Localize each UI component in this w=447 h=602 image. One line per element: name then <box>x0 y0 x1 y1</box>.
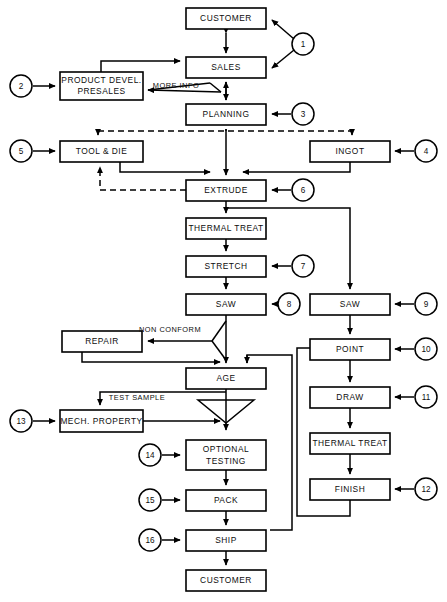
flowchart-svg: CUSTOMERSALESPRODUCT DEVEL.PRESALESPLANN… <box>0 0 447 602</box>
callout-8[interactable]: 8 <box>278 293 300 315</box>
callout-number: 1 <box>301 40 306 49</box>
process-box-customer-bottom[interactable]: CUSTOMER <box>186 570 266 591</box>
box-label: SAW <box>216 299 236 309</box>
callout-number: 12 <box>421 485 431 494</box>
callout-number: 7 <box>301 262 306 271</box>
callout-number: 5 <box>19 147 24 156</box>
box-label: SALES <box>211 62 241 72</box>
callout-7[interactable]: 7 <box>292 255 314 277</box>
box-label: THERMAL TREAT <box>188 223 263 233</box>
box-label: SAW <box>340 299 360 309</box>
box-label: DRAW <box>336 392 363 402</box>
callout-number: 14 <box>145 451 155 460</box>
callout-9[interactable]: 9 <box>415 293 437 315</box>
process-box-thermal-treat-right[interactable]: THERMAL TREAT <box>310 433 390 454</box>
process-box-tool-and-die[interactable]: TOOL & DIE <box>60 141 143 162</box>
process-box-planning[interactable]: PLANNING <box>186 104 266 125</box>
leader-1-customer <box>272 20 294 39</box>
box-label: FINISH <box>335 484 365 494</box>
leader-1-sales <box>272 50 294 68</box>
callout-3[interactable]: 3 <box>292 103 314 125</box>
callout-11[interactable]: 11 <box>415 386 437 408</box>
process-box-thermal-treat-left[interactable]: THERMAL TREAT <box>186 218 266 239</box>
process-box-finish[interactable]: FINISH <box>310 479 390 500</box>
callout-number: 2 <box>19 82 24 91</box>
process-box-optional-testing[interactable]: OPTIONALTESTING <box>186 440 266 470</box>
box-label: TOOL & DIE <box>76 146 128 156</box>
callout-13[interactable]: 13 <box>10 410 32 432</box>
process-box-age[interactable]: AGE <box>186 368 266 389</box>
process-box-saw-left[interactable]: SAW <box>186 294 266 315</box>
callout-1[interactable]: 1 <box>292 33 314 55</box>
process-box-sales[interactable]: SALES <box>186 57 266 78</box>
edge-productdevel-sales <box>101 61 180 72</box>
box-label-line2: PRESALES <box>77 86 125 96</box>
box-label: INGOT <box>335 146 364 156</box>
edge-label-test-sample: TEST SAMPLE <box>109 393 165 402</box>
callout-number: 13 <box>16 417 26 426</box>
process-box-stretch[interactable]: STRETCH <box>186 256 266 277</box>
process-box-extrude[interactable]: EXTRUDE <box>186 180 266 201</box>
process-box-ship[interactable]: SHIP <box>186 530 266 551</box>
box-label-line1: OPTIONAL <box>203 444 249 454</box>
callout-16[interactable]: 16 <box>139 529 161 551</box>
box-label: REPAIR <box>85 336 119 346</box>
edge-nonconform-rejoin <box>212 341 226 360</box>
box-label: MECH. PROPERTY <box>60 416 142 426</box>
box-label: PACK <box>214 495 238 505</box>
box-label-line1: PRODUCT DEVEL. <box>61 75 141 85</box>
edge-label-more-info: MORE INFO <box>153 81 199 90</box>
callout-number: 10 <box>421 345 431 354</box>
callout-2[interactable]: 2 <box>10 75 32 97</box>
edge-moreinfo-productdevel <box>148 90 221 92</box>
process-box-ingot[interactable]: INGOT <box>310 141 390 162</box>
flowchart-canvas: CUSTOMERSALESPRODUCT DEVEL.PRESALESPLANN… <box>0 0 447 602</box>
edge-labels-layer: MORE INFONON CONFORMTEST SAMPLE <box>109 81 201 402</box>
box-label: POINT <box>336 344 364 354</box>
edge-moreinfo-branch-a <box>210 83 221 92</box>
box-label: STRETCH <box>204 261 247 271</box>
callout-number: 15 <box>145 496 155 505</box>
callout-12[interactable]: 12 <box>415 478 437 500</box>
edge-ingot-extrude <box>243 162 350 172</box>
process-box-pack[interactable]: PACK <box>186 490 266 511</box>
callout-number: 4 <box>424 147 429 156</box>
callout-number: 11 <box>422 393 431 402</box>
callout-number: 16 <box>145 536 155 545</box>
box-label: SHIP <box>215 535 237 545</box>
callout-4[interactable]: 4 <box>415 140 437 162</box>
edge-extrude-tooldie-return <box>100 167 186 190</box>
process-box-mech-property[interactable]: MECH. PROPERTY <box>60 410 143 432</box>
edge-label-non-conform: NON CONFORM <box>139 325 201 334</box>
callout-number: 8 <box>287 300 292 309</box>
edge-repair-age <box>82 352 220 362</box>
callout-15[interactable]: 15 <box>139 489 161 511</box>
box-label: AGE <box>216 373 235 383</box>
callout-number: 6 <box>301 186 306 195</box>
process-box-point[interactable]: POINT <box>310 339 390 360</box>
process-box-product-devel[interactable]: PRODUCT DEVEL.PRESALES <box>60 72 143 100</box>
box-label-line2: TESTING <box>206 456 246 466</box>
edge-nonconform-diag <box>212 321 226 341</box>
edge-tooldie-extrude <box>120 162 210 172</box>
callout-14[interactable]: 14 <box>139 444 161 466</box>
process-box-draw[interactable]: DRAW <box>310 387 390 408</box>
box-label: EXTRUDE <box>204 185 248 195</box>
box-label: THERMAL TREAT <box>312 438 387 448</box>
callout-5[interactable]: 5 <box>10 140 32 162</box>
callout-10[interactable]: 10 <box>415 338 437 360</box>
box-label: PLANNING <box>203 109 250 119</box>
box-label: CUSTOMER <box>200 13 252 23</box>
box-label: CUSTOMER <box>200 575 252 585</box>
callout-number: 9 <box>424 300 429 309</box>
process-box-customer-top[interactable]: CUSTOMER <box>186 8 266 29</box>
process-box-repair[interactable]: REPAIR <box>62 331 142 352</box>
callout-number: 3 <box>301 110 306 119</box>
callout-6[interactable]: 6 <box>292 179 314 201</box>
boxes-layer: CUSTOMERSALESPRODUCT DEVEL.PRESALESPLANN… <box>60 8 390 591</box>
process-box-saw-right[interactable]: SAW <box>310 294 390 315</box>
